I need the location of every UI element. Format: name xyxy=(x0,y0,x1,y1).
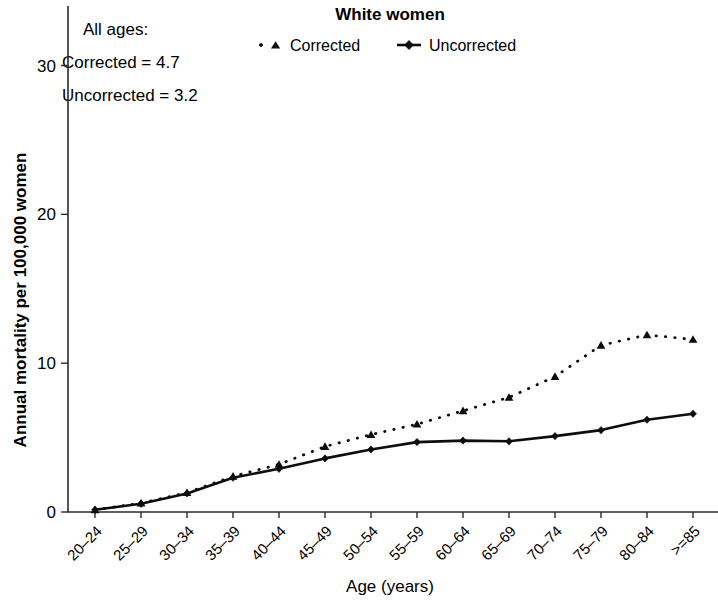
data-point-marker xyxy=(414,438,421,445)
x-tick-label: 25–29 xyxy=(110,522,152,564)
x-tick-label: 70–74 xyxy=(524,522,566,564)
data-point-marker xyxy=(644,416,651,423)
annotation-line-3: Uncorrected = 3.2 xyxy=(62,86,198,105)
x-tick-label: 45–49 xyxy=(294,522,336,564)
data-point-marker xyxy=(230,474,237,481)
legend-label-corrected: Corrected xyxy=(290,37,360,54)
x-tick-label: >=85 xyxy=(667,522,703,558)
x-tick-label: 20–24 xyxy=(64,522,106,564)
chart-legend: Corrected Uncorrected xyxy=(259,37,516,54)
data-point-marker xyxy=(460,437,467,444)
data-point-marker xyxy=(368,446,375,453)
chart-figure: White women Corrected Uncorrected All ag… xyxy=(0,0,718,601)
x-axis-title: Age (years) xyxy=(346,577,434,596)
y-axis-title: Annual mortality per 100,000 women xyxy=(11,153,30,448)
data-point-marker xyxy=(689,335,698,343)
annotation-line-1: All ages: xyxy=(83,20,148,39)
chart-title: White women xyxy=(335,5,445,24)
series-corrected xyxy=(91,331,698,513)
annotation-line-2: Corrected = 4.7 xyxy=(62,53,180,72)
data-point-marker xyxy=(322,455,329,462)
legend-triangle-icon xyxy=(271,41,280,48)
legend-item-corrected: Corrected xyxy=(259,37,360,54)
x-tick-label: 60–64 xyxy=(432,522,474,564)
data-point-marker xyxy=(690,410,697,417)
y-tick-label: 10 xyxy=(37,354,56,373)
data-point-marker xyxy=(551,372,560,380)
legend-dot-icon xyxy=(259,43,262,46)
legend-diamond-icon xyxy=(405,40,414,49)
x-tick-label: 30–34 xyxy=(156,522,198,564)
x-tick-label: 65–69 xyxy=(478,522,520,564)
series-uncorrected xyxy=(92,410,697,513)
line-chart: White women Corrected Uncorrected All ag… xyxy=(0,0,718,601)
x-tick-label: 50–54 xyxy=(340,522,382,564)
x-tick-label: 40–44 xyxy=(248,522,290,564)
y-tick-label: 0 xyxy=(47,503,56,522)
all-ages-annotation: All ages: Corrected = 4.7 Uncorrected = … xyxy=(62,20,198,105)
y-tick-label: 30 xyxy=(37,57,56,76)
data-point-marker xyxy=(597,341,606,349)
data-point-marker xyxy=(552,433,559,440)
series-line xyxy=(95,335,693,510)
legend-item-uncorrected: Uncorrected xyxy=(397,37,516,54)
y-tick-label: 20 xyxy=(37,205,56,224)
x-tick-label: 75–79 xyxy=(570,522,612,564)
data-point-marker xyxy=(506,438,513,445)
y-axis-ticks: 0102030 xyxy=(37,57,68,522)
axis-lines xyxy=(68,6,718,512)
data-point-marker xyxy=(367,430,376,438)
chart-series xyxy=(91,331,698,514)
x-tick-label: 35–39 xyxy=(202,522,244,564)
data-point-marker xyxy=(598,427,605,434)
legend-label-uncorrected: Uncorrected xyxy=(429,37,516,54)
x-tick-label: 55–59 xyxy=(386,522,428,564)
data-point-marker xyxy=(643,331,652,339)
x-tick-label: 80–84 xyxy=(616,522,658,564)
data-point-marker xyxy=(321,442,330,450)
x-axis-ticks: 20–2425–2930–3435–3940–4445–4950–5455–59… xyxy=(64,512,704,564)
